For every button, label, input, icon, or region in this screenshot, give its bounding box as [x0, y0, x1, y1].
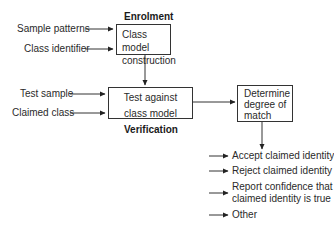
class-model-box-line2: construction — [122, 54, 170, 67]
test-against-class-model-box: Test against class model — [108, 87, 193, 119]
outcome-other: Other — [232, 209, 257, 221]
determine-degree-of-match-box: Determine degree of match — [237, 85, 293, 122]
test-box-line2: class model — [109, 106, 192, 122]
match-box-line1: Determine — [244, 88, 292, 99]
outcome-accept: Accept claimed identity — [232, 150, 334, 162]
class-model-box-line1: Class model — [122, 28, 170, 54]
match-box-line3: match — [244, 110, 292, 121]
input-sample-patterns: Sample patterns — [17, 23, 90, 35]
match-box-line2: degree of — [244, 99, 292, 110]
outcome-report-line1: Report confidence that — [232, 181, 333, 193]
class-model-construction-box: Class model construction — [116, 24, 171, 55]
verification-heading: Verification — [124, 124, 178, 136]
input-test-sample: Test sample — [20, 88, 73, 100]
input-claimed-class: Claimed class — [12, 107, 74, 119]
outcome-report-confidence: Report confidence that claimed identity … — [232, 181, 333, 205]
input-class-identifier: Class identifier — [24, 43, 90, 55]
enrolment-heading: Enrolment — [124, 11, 173, 23]
test-box-line1: Test against — [109, 90, 192, 106]
outcome-reject: Reject claimed identity — [232, 165, 332, 177]
outcome-report-line2: claimed identity is true — [232, 193, 333, 205]
